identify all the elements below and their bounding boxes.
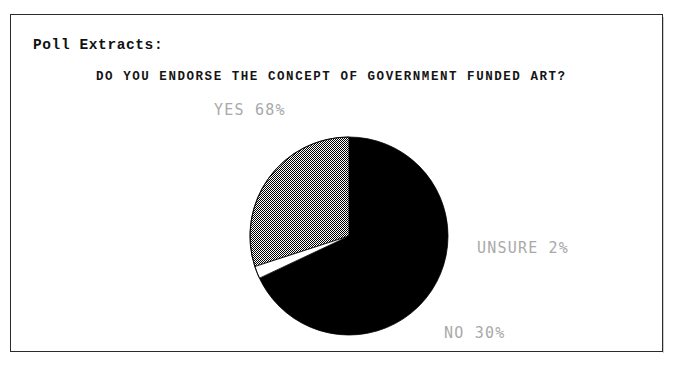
pie-label-no: NO 30% — [444, 324, 505, 342]
pie-chart — [243, 131, 458, 343]
document-frame: Poll Extracts: DO YOU ENDORSE THE CONCEP… — [10, 14, 663, 352]
pie-label-unsure: UNSURE 2% — [477, 239, 569, 257]
scanned-poll-page: Poll Extracts: DO YOU ENDORSE THE CONCEP… — [0, 0, 676, 367]
poll-question-heading: DO YOU ENDORSE THE CONCEPT OF GOVERNMENT… — [96, 70, 567, 84]
section-label: Poll Extracts: — [33, 37, 163, 53]
pie-label-yes: YES 68% — [214, 101, 286, 119]
pie-chart-svg — [243, 131, 458, 343]
